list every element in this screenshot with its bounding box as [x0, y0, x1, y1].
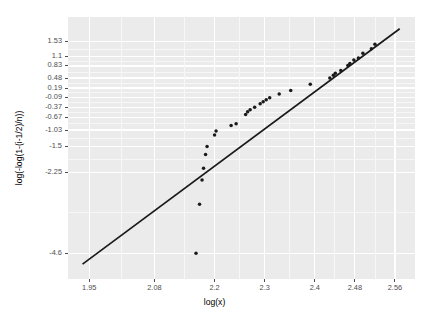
y-tick-mark	[65, 172, 68, 173]
data-point	[253, 106, 257, 110]
data-point	[289, 89, 293, 93]
data-point	[268, 96, 272, 100]
data-point	[328, 76, 332, 80]
data-point	[334, 71, 338, 75]
data-point	[214, 129, 218, 133]
data-point	[204, 153, 208, 157]
weibull-probability-plot: 1.531.10.830.480.19-0.09-0.37-0.67-1.03-…	[0, 0, 429, 326]
data-point	[352, 58, 356, 62]
data-point	[309, 82, 313, 86]
y-tick-mark	[65, 107, 68, 108]
y-tick-label: 1.1	[18, 52, 62, 60]
x-tick-mark	[214, 279, 215, 282]
y-tick-mark	[65, 117, 68, 118]
y-tick-mark	[65, 253, 68, 254]
y-tick-mark	[65, 65, 68, 66]
data-point	[277, 92, 281, 96]
x-tick-label: 2.4	[295, 284, 335, 292]
y-tick-mark	[65, 88, 68, 89]
data-point	[234, 122, 238, 126]
data-point	[361, 51, 365, 55]
data-point	[229, 124, 233, 128]
y-tick-mark	[65, 41, 68, 42]
x-tick-mark	[89, 279, 90, 282]
y-tick-label: -0.09	[18, 93, 62, 101]
x-tick-mark	[354, 279, 355, 282]
data-point	[258, 102, 262, 106]
y-tick-label: 0.19	[18, 84, 62, 92]
y-tick-label: 0.48	[18, 74, 62, 82]
y-tick-mark	[65, 130, 68, 131]
data-point	[373, 42, 377, 46]
x-tick-mark	[154, 279, 155, 282]
y-tick-label: -1.03	[18, 126, 62, 134]
reference-line	[83, 29, 400, 264]
y-tick-label: -0.67	[18, 113, 62, 121]
x-tick-label: 1.95	[69, 284, 109, 292]
data-point	[261, 100, 265, 104]
x-tick-mark	[314, 279, 315, 282]
y-tick-label: -2.25	[18, 168, 62, 176]
plot-marks-layer	[0, 0, 429, 326]
x-tick-label: 2.56	[375, 284, 415, 292]
y-tick-mark	[65, 146, 68, 147]
y-tick-label: 0.83	[18, 61, 62, 69]
x-tick-mark	[394, 279, 395, 282]
data-point	[339, 69, 343, 73]
y-tick-mark	[65, 56, 68, 57]
y-tick-mark	[65, 97, 68, 98]
x-tick-label: 2.08	[134, 284, 174, 292]
data-point	[348, 62, 352, 66]
y-tick-label: 1.53	[18, 37, 62, 45]
x-tick-mark	[264, 279, 265, 282]
data-point	[200, 178, 204, 182]
x-tick-label: 2.2	[195, 284, 235, 292]
data-point	[370, 47, 374, 51]
x-axis-title: log(x)	[0, 297, 429, 307]
y-axis-title: log(-log(1-(i-1/2)/n))	[14, 111, 24, 186]
x-tick-label: 2.48	[335, 284, 375, 292]
data-point	[202, 167, 206, 171]
data-point	[205, 145, 209, 149]
y-tick-label: -1.5	[18, 142, 62, 150]
data-point	[248, 108, 252, 112]
y-tick-mark	[65, 78, 68, 79]
y-tick-label: -4.6	[18, 249, 62, 257]
y-tick-label: -0.37	[18, 103, 62, 111]
data-point	[264, 98, 268, 102]
scatter-series	[194, 42, 376, 254]
x-tick-label: 2.3	[245, 284, 285, 292]
data-point	[213, 133, 217, 137]
data-point	[357, 56, 361, 60]
data-point	[194, 251, 198, 255]
data-point	[198, 202, 202, 206]
